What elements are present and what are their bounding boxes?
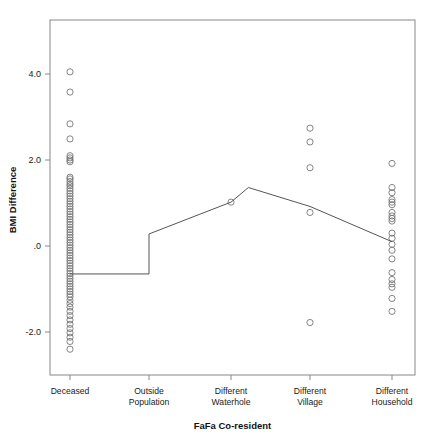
data-point [67, 89, 73, 95]
data-point [389, 256, 395, 262]
data-point [67, 69, 73, 75]
data-point [389, 270, 395, 276]
x-category-label: Waterhole [212, 397, 251, 407]
data-point [307, 139, 313, 145]
data-point [67, 346, 73, 352]
plot-canvas: 4.02.0.0-2.0 BMI Difference FaFa Co-resi… [0, 0, 428, 439]
x-category-label: Different [294, 386, 327, 396]
x-axis-ticks [70, 375, 392, 380]
y-axis-title-text: BMI Difference [7, 167, 18, 234]
data-point [389, 295, 395, 301]
data-points-layer [67, 69, 395, 353]
trend-line [70, 188, 392, 274]
data-point [67, 136, 73, 142]
y-axis-ticks: 4.02.0.0-2.0 [25, 69, 50, 337]
y-tick-label: 4.0 [28, 69, 41, 79]
trend-line-path [70, 188, 392, 274]
x-category-label: Household [371, 397, 412, 407]
plot-frame [50, 20, 415, 375]
y-tick-label: 2.0 [28, 155, 41, 165]
data-point [67, 338, 73, 344]
data-point [307, 165, 313, 171]
x-axis-title-text: FaFa Co-resident [194, 420, 272, 431]
x-category-label: Village [297, 397, 323, 407]
x-category-label: Outside [134, 386, 164, 396]
data-point [307, 125, 313, 131]
data-point [389, 241, 395, 247]
y-tick-label: -2.0 [25, 327, 41, 337]
x-category-label: Different [376, 386, 409, 396]
data-point [67, 121, 73, 127]
x-category-labels: DeceasedOutsidePopulationDifferentWaterh… [51, 386, 413, 407]
scatter-plot-figure: 4.02.0.0-2.0 BMI Difference FaFa Co-resi… [0, 0, 428, 439]
x-category-label: Population [129, 397, 170, 407]
data-point [307, 209, 313, 215]
x-category-label: Deceased [51, 386, 90, 396]
plot-border [50, 20, 415, 375]
data-point [307, 319, 313, 325]
x-axis-title: FaFa Co-resident [194, 420, 272, 431]
data-point [389, 160, 395, 166]
data-point [389, 247, 395, 253]
x-category-label: Different [215, 386, 248, 396]
y-axis-title: BMI Difference [7, 167, 18, 234]
y-tick-label: .0 [33, 241, 41, 251]
data-point [389, 308, 395, 314]
